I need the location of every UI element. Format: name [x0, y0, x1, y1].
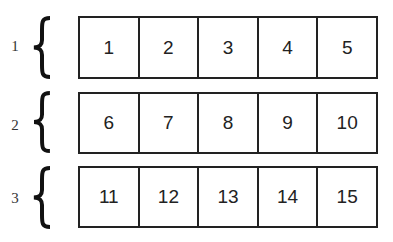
group-2: 2 6 7 8 9 10 [0, 91, 393, 153]
cell: 7 [140, 94, 200, 152]
group-1: 1 1 2 3 4 5 [0, 16, 393, 79]
brace-icon [30, 166, 58, 229]
cell-strip: 11 12 13 14 15 [78, 166, 378, 228]
brace-icon [30, 16, 58, 79]
cell: 15 [318, 168, 376, 226]
cell: 9 [259, 94, 319, 152]
group-label: 1 [8, 38, 22, 55]
cell-strip: 1 2 3 4 5 [78, 16, 378, 79]
brace-icon [30, 91, 58, 153]
cell: 10 [318, 94, 376, 152]
cell: 6 [80, 94, 140, 152]
cell: 13 [199, 168, 259, 226]
cell: 1 [80, 18, 140, 77]
group-label: 2 [8, 117, 22, 134]
cell-strip: 6 7 8 9 10 [78, 92, 378, 154]
cell: 4 [259, 18, 319, 77]
cell: 14 [259, 168, 319, 226]
cell: 2 [140, 18, 200, 77]
cell: 11 [80, 168, 140, 226]
cell: 12 [140, 168, 200, 226]
group-label: 3 [8, 190, 22, 207]
cell: 5 [318, 18, 376, 77]
cell: 8 [199, 94, 259, 152]
cell: 3 [199, 18, 259, 77]
group-3: 3 11 12 13 14 15 [0, 166, 393, 229]
